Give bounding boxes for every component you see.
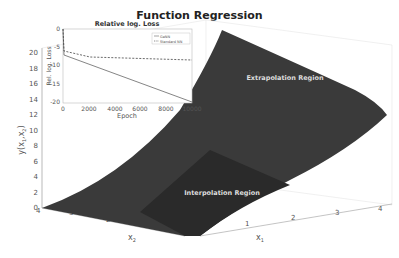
svg-text:0: 0 <box>56 25 60 32</box>
svg-text:4: 4 <box>34 173 39 181</box>
svg-text:4: 4 <box>378 205 383 213</box>
svg-text:4000: 4000 <box>107 105 122 112</box>
inset-title: Relative log. Loss <box>95 20 160 28</box>
svg-text:10: 10 <box>29 127 38 135</box>
surface-plot: 024 6810 121416 1820 y(x1,x2) 432 10 012… <box>0 0 399 258</box>
svg-text:2: 2 <box>34 189 38 197</box>
svg-text:10000: 10000 <box>182 105 201 112</box>
x2-axis-label: x2 <box>128 233 136 243</box>
svg-text:2000: 2000 <box>81 105 96 112</box>
inset-loss-chart: Relative log. Loss 0-5-10 -15-20 0200040… <box>45 20 202 120</box>
svg-text:6000: 6000 <box>132 105 147 112</box>
svg-text:-20: -20 <box>50 98 60 105</box>
svg-text:1: 1 <box>245 220 249 228</box>
svg-text:12: 12 <box>29 111 38 119</box>
svg-text:3: 3 <box>335 209 339 217</box>
svg-text:14: 14 <box>29 96 38 104</box>
svg-text:2: 2 <box>291 214 295 222</box>
inset-xlabel: Epoch <box>117 112 137 120</box>
svg-text:4: 4 <box>36 207 41 215</box>
svg-text:20: 20 <box>29 49 38 57</box>
svg-text:16: 16 <box>29 80 38 88</box>
legend-genn: GeNN <box>160 35 170 39</box>
interpolation-label: Interpolation Region <box>184 189 260 197</box>
z-ticks: 024 6810 121416 1820 <box>29 49 38 212</box>
svg-text:-5: -5 <box>54 43 60 50</box>
svg-text:18: 18 <box>29 65 38 73</box>
extrapolation-label: Extrapolation Region <box>246 74 324 82</box>
svg-text:6: 6 <box>34 158 39 166</box>
svg-text:8: 8 <box>34 142 38 150</box>
inset-ylabel: Rel. log. Loss <box>45 46 53 85</box>
svg-text:0: 0 <box>61 105 65 112</box>
svg-text:8000: 8000 <box>158 105 173 112</box>
z-axis-label: y(x1,x2) <box>17 125 27 154</box>
legend-standard-nn: Standard NN <box>160 40 183 44</box>
x1-axis-label: x1 <box>256 233 264 243</box>
